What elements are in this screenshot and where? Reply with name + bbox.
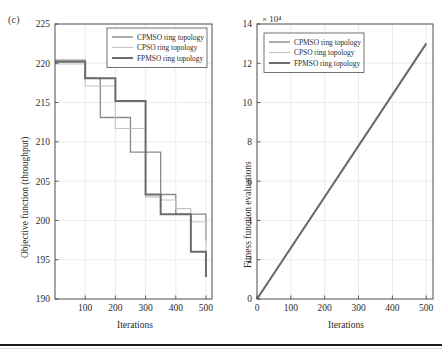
y-tick-label: 220 [36, 59, 51, 69]
y-axis-exponent-right: × 10⁴ [262, 14, 281, 24]
fitness-evaluations-plot: 010020030040050002468101214CPMSO ring to… [222, 0, 442, 336]
y-tick-label: 215 [36, 98, 51, 108]
x-tick-label: 200 [318, 303, 333, 313]
data-series-group [55, 60, 206, 277]
y-tick-label: 205 [36, 177, 51, 187]
x-tick-label: 400 [385, 303, 400, 313]
legend: CPMSO ring topologyCPSO ring topologyFPM… [107, 28, 207, 68]
footer-rule [0, 344, 442, 346]
y-axis-label-right: Fitness function evaluations [243, 161, 253, 268]
y-tick-label: 12 [243, 59, 253, 69]
data-series-group [257, 44, 426, 299]
y-tick-label: 10 [243, 98, 253, 108]
x-tick-label: 0 [255, 303, 260, 313]
y-tick-label: 210 [36, 137, 51, 147]
objective-function-plot: 100200300400500190195200205210215220225C… [0, 0, 222, 336]
legend-label-0: CPMSO ring topology [137, 33, 204, 42]
y-axis-label-left: Objective function (throughput) [20, 137, 30, 258]
y-tick-label: 200 [36, 216, 51, 226]
y-tick-label: 8 [247, 137, 252, 147]
x-axis-label-right: Iterations [257, 320, 435, 330]
series-line-fpmso [257, 44, 426, 299]
x-tick-label: 300 [351, 303, 366, 313]
x-tick-label: 200 [108, 303, 123, 313]
y-tick-label: 195 [36, 255, 51, 265]
chart-objective-function: 100200300400500190195200205210215220225C… [0, 0, 222, 336]
figure-panel-c: (c) 100200300400500190195200205210215220… [0, 0, 442, 354]
y-tick-label: 0 [247, 294, 252, 304]
series-line-fpmso [55, 62, 206, 277]
x-tick-label: 100 [78, 303, 93, 313]
y-tick-label: 14 [243, 19, 253, 29]
legend-label-2: FPMSO ring topology [137, 54, 203, 63]
footer-rule-secondary [0, 348, 442, 349]
chart-fitness-evaluations: 010020030040050002468101214CPMSO ring to… [222, 0, 442, 336]
x-tick-label: 500 [419, 303, 434, 313]
legend-label-1: CPSO ring topology [294, 48, 355, 57]
y-tick-label: 225 [36, 19, 51, 29]
legend-label-0: CPMSO ring topology [294, 38, 361, 47]
x-axis-label-left: Iterations [55, 320, 215, 330]
series-line-cpso [55, 64, 206, 263]
x-tick-label: 500 [199, 303, 214, 313]
legend-label-2: FPMSO ring topology [294, 59, 360, 68]
x-tick-label: 400 [169, 303, 184, 313]
legend-label-1: CPSO ring topology [137, 43, 198, 52]
x-tick-label: 300 [138, 303, 153, 313]
y-tick-label: 190 [36, 294, 51, 304]
x-tick-label: 100 [284, 303, 299, 313]
legend: CPMSO ring topologyCPSO ring topologyFPM… [264, 33, 364, 73]
